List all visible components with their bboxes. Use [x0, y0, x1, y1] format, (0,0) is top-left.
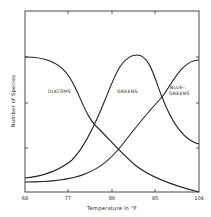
chart-svg: DIATOMS GREENS BLUE- GREENS 68 77 86 95 … [0, 0, 211, 217]
greens-label: GREENS [117, 89, 138, 94]
x-tick-label: 104 [194, 195, 204, 201]
greens-curve [25, 55, 199, 178]
y-ticks [25, 57, 199, 148]
x-tick-label: 95 [152, 195, 158, 201]
blue-greens-label-line2: GREENS [169, 91, 190, 96]
x-tick-label: 77 [65, 195, 71, 201]
x-tick-label: 68 [22, 195, 28, 201]
plot-frame [25, 11, 199, 192]
diatoms-label: DIATOMS [48, 89, 71, 94]
y-axis-title: Number of Species [10, 75, 17, 128]
x-axis-title: Temperature in °F [86, 205, 137, 212]
x-tick-label: 86 [109, 195, 115, 201]
blue-greens-label-line1: BLUE- [170, 85, 185, 90]
